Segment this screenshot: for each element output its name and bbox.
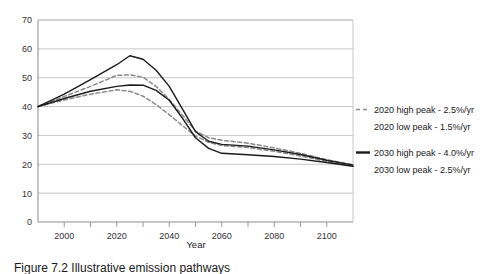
legend-label: 2030 high peak - 4.0%/yr — [374, 148, 474, 158]
y-tick-label: 50 — [22, 73, 32, 83]
figure-caption: Figure 7.2 Illustrative emission pathway… — [14, 262, 314, 274]
x-tick-label: 2020 — [107, 231, 127, 241]
axis-lines-group — [38, 20, 353, 222]
figure-caption-text: Figure 7.2 Illustrative emission pathway… — [14, 262, 314, 274]
y-tick-label: 30 — [22, 131, 32, 141]
series-line — [38, 56, 353, 165]
y-tick-label: 40 — [22, 102, 32, 112]
legend-label: 2020 low peak - 1.5%/yr — [374, 122, 471, 132]
x-tick-label: 2060 — [212, 231, 232, 241]
x-tick-label: 2000 — [54, 231, 74, 241]
legend-label: 2020 high peak - 2.5%/yr — [374, 105, 474, 115]
x-tick-label: 2040 — [159, 231, 179, 241]
gridlines-group — [38, 20, 353, 193]
y-tick-label: 70 — [22, 15, 32, 25]
y-tick-label: 20 — [22, 160, 32, 170]
legend-group: 2020 high peak - 2.5%/yr2020 low peak - … — [356, 105, 474, 175]
y-tick-labels-group: 010203040506070 — [22, 15, 32, 227]
series-line — [38, 75, 353, 165]
x-tick-label: 2100 — [317, 231, 337, 241]
figure-container: 010203040506070 200020202040206020802100… — [0, 0, 489, 274]
legend-label: 2030 low peak - 2.5%/yr — [374, 165, 471, 175]
y-tick-label: 0 — [27, 217, 32, 227]
y-tick-label: 10 — [22, 189, 32, 199]
x-axis-title: Year — [186, 239, 205, 250]
data-series-group — [38, 56, 353, 167]
x-tick-marks-group — [64, 222, 327, 227]
y-tick-label: 60 — [22, 44, 32, 54]
x-tick-label: 2080 — [264, 231, 284, 241]
emissions-line-chart: 010203040506070 200020202040206020802100… — [0, 0, 489, 274]
